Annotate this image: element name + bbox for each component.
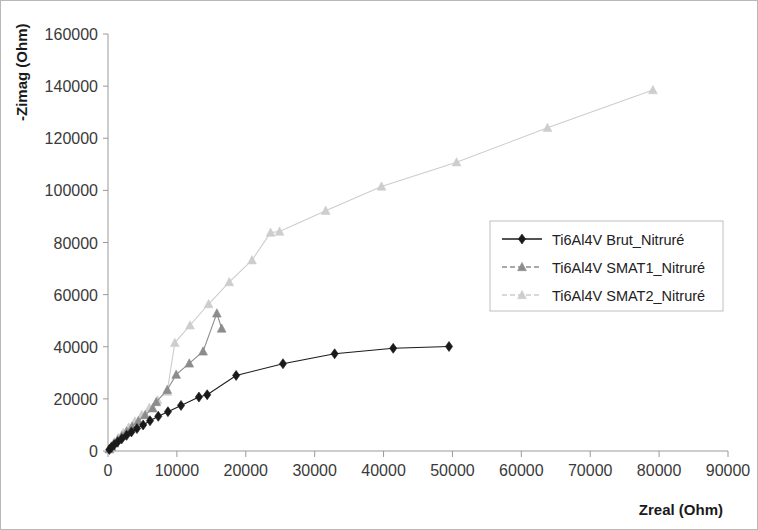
legend-layer[interactable]: Ti6Al4V Brut_NitruréTi6Al4V SMAT1_Nitrur…	[490, 221, 723, 311]
x-tick-label: 10000	[155, 462, 200, 479]
y-tick-label: 0	[89, 443, 98, 460]
data-point-diamond	[279, 359, 286, 369]
x-tick-label: 40000	[361, 462, 406, 479]
y-tick-label: 40000	[54, 339, 99, 356]
data-point-diamond	[390, 343, 397, 353]
y-tick-label: 160000	[45, 26, 98, 43]
y-tick-label: 140000	[45, 78, 98, 95]
data-point-diamond	[155, 411, 162, 421]
x-tick-label: 80000	[637, 462, 682, 479]
data-point-triangle	[649, 85, 658, 93]
data-point-diamond	[445, 341, 452, 351]
y-tick-label: 60000	[54, 287, 99, 304]
data-point-triangle	[217, 324, 226, 332]
y-tick-label: 120000	[45, 130, 98, 147]
data-point-triangle	[321, 206, 330, 214]
data-point-diamond	[164, 407, 171, 417]
data-point-diamond	[233, 370, 240, 380]
data-point-diamond	[195, 392, 202, 402]
legend-label: Ti6Al4V SMAT1_Nitruré	[552, 260, 705, 276]
data-point-triangle	[248, 256, 257, 264]
data-point-triangle	[275, 227, 284, 235]
data-point-triangle	[172, 370, 181, 378]
chart-figure: 0200004000060000800001000001200001400001…	[0, 0, 758, 530]
x-tick-label: 90000	[706, 462, 751, 479]
data-point-diamond	[331, 349, 338, 359]
legend-label: Ti6Al4V SMAT2_Nitruré	[552, 288, 705, 304]
data-point-triangle	[543, 123, 552, 131]
y-tick-label: 20000	[54, 391, 99, 408]
x-axis-title: Zreal (Ohm)	[639, 501, 723, 518]
x-tick-label: 70000	[568, 462, 613, 479]
legend-label: Ti6Al4V Brut_Nitruré	[552, 232, 684, 248]
x-tick-label: 50000	[430, 462, 475, 479]
x-tick-label: 0	[104, 462, 113, 479]
x-tick-label: 30000	[292, 462, 337, 479]
data-point-triangle	[163, 385, 172, 393]
y-tick-label: 100000	[45, 182, 98, 199]
nyquist-plot: 0200004000060000800001000001200001400001…	[1, 1, 758, 530]
data-point-diamond	[204, 390, 211, 400]
y-axis-title: -Zimag (Ohm)	[13, 24, 30, 122]
data-point-triangle	[212, 309, 221, 317]
x-tick-label: 60000	[499, 462, 544, 479]
data-point-triangle	[199, 347, 208, 355]
data-point-diamond	[177, 400, 184, 410]
data-point-triangle	[452, 158, 461, 166]
y-tick-label: 80000	[54, 235, 99, 252]
x-tick-label: 20000	[224, 462, 269, 479]
